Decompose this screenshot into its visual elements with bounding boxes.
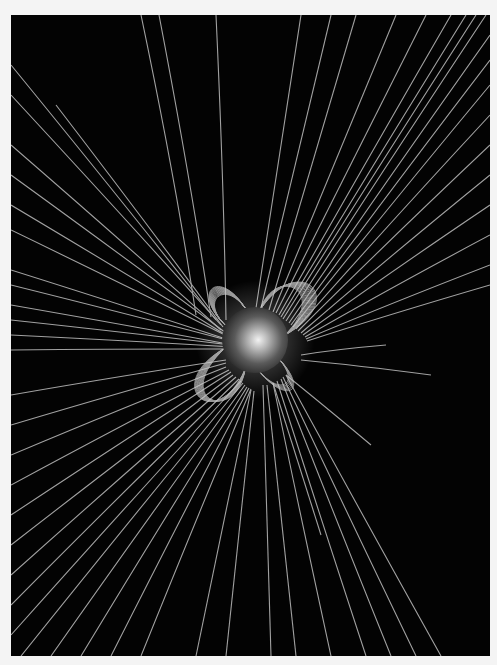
field-line bbox=[11, 145, 221, 330]
field-line bbox=[281, 379, 391, 656]
field-line bbox=[11, 377, 236, 575]
field-line bbox=[277, 381, 366, 656]
field-line bbox=[11, 381, 241, 635]
field-line bbox=[276, 15, 426, 313]
field-line bbox=[305, 235, 490, 337]
field-line bbox=[11, 175, 226, 333]
field-line bbox=[11, 230, 229, 337]
field-line bbox=[301, 360, 431, 375]
field-line bbox=[11, 95, 221, 325]
field-line bbox=[263, 385, 271, 656]
field-line bbox=[289, 35, 490, 323]
field-line bbox=[56, 105, 223, 327]
field-line bbox=[261, 15, 331, 308]
field-line bbox=[11, 367, 226, 455]
field-line bbox=[11, 205, 226, 335]
solar-field-visualization bbox=[11, 15, 490, 656]
field-line bbox=[11, 363, 226, 425]
field-lines-canvas bbox=[11, 15, 490, 656]
field-line bbox=[159, 15, 211, 317]
field-line bbox=[11, 360, 226, 395]
field-line bbox=[216, 15, 226, 320]
field-line bbox=[296, 115, 490, 329]
field-line bbox=[11, 270, 229, 340]
field-line bbox=[291, 60, 490, 325]
field-line bbox=[256, 15, 301, 308]
field-line bbox=[11, 375, 233, 545]
field-line bbox=[286, 375, 441, 656]
field-line bbox=[293, 85, 490, 327]
field-line bbox=[283, 15, 476, 319]
field-line bbox=[283, 377, 416, 656]
field-line bbox=[111, 388, 249, 656]
field-line bbox=[11, 65, 216, 320]
sun-sphere bbox=[222, 307, 288, 373]
field-line bbox=[226, 391, 254, 656]
field-line bbox=[141, 389, 251, 656]
field-line bbox=[286, 15, 486, 321]
field-line bbox=[141, 15, 196, 315]
